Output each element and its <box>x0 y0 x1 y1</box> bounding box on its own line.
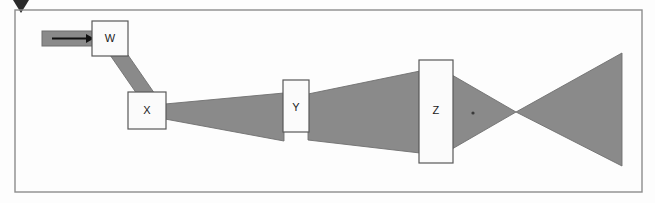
component-z[interactable]: Z <box>419 60 453 163</box>
beam-path-diagram: WXYZ <box>0 0 655 203</box>
beam-group <box>110 53 622 166</box>
beam-z-converging <box>452 75 516 149</box>
component-x[interactable]: X <box>128 92 166 129</box>
component-w[interactable]: W <box>92 21 128 56</box>
diagram-canvas: WXYZ <box>0 0 655 203</box>
component-z-label: Z <box>432 104 439 116</box>
component-y-label: Y <box>292 101 300 113</box>
component-x-label: X <box>143 104 151 116</box>
optical-axis-dot <box>471 111 474 114</box>
component-w-label: W <box>105 32 116 44</box>
component-y[interactable]: Y <box>283 80 309 132</box>
beam-y-to-z <box>308 71 420 153</box>
beam-diverging-output <box>516 53 622 166</box>
beam-x-to-y <box>165 93 284 141</box>
